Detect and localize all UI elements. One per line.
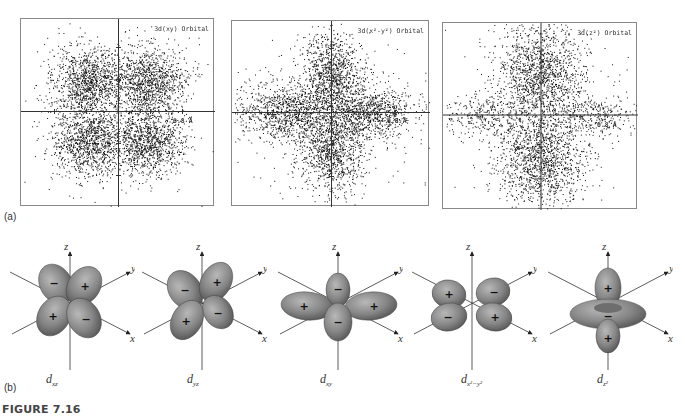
- svg-text:x: x: [397, 332, 403, 344]
- svg-text:+: +: [181, 315, 190, 328]
- svg-text:x: x: [261, 332, 267, 344]
- orbital-dyz: zyx−++−: [137, 238, 267, 378]
- svg-text:+: +: [299, 300, 308, 313]
- orbital-dx2y2: zyx+−−+: [407, 238, 537, 378]
- svg-text:z: z: [465, 240, 471, 252]
- part-a-label: (a): [4, 211, 16, 222]
- svg-text:x: x: [667, 332, 673, 344]
- svg-text:+: +: [603, 332, 612, 345]
- svg-text:y: y: [532, 262, 537, 274]
- scale-label: 0.8 Å: [173, 117, 193, 125]
- orbital-dz2-diagram: zyx+−+: [543, 238, 673, 378]
- plot-title: 3d(z²) Orbital: [577, 29, 632, 37]
- label-dxy: dxy: [320, 372, 332, 388]
- part-b-label: (b): [4, 382, 16, 393]
- svg-text:y: y: [262, 262, 267, 274]
- orbital-dx2y2-diagram: zyx+−−+: [407, 238, 537, 378]
- svg-text:+: +: [603, 282, 612, 295]
- svg-text:+: +: [369, 300, 378, 313]
- dot-density-canvas: [443, 23, 638, 210]
- svg-text:z: z: [601, 240, 607, 252]
- svg-text:−: −: [333, 283, 342, 296]
- svg-text:−: −: [333, 316, 342, 329]
- plot-title: 3d(x²-y²) Orbital: [357, 27, 424, 35]
- svg-text:+: +: [48, 310, 57, 323]
- orbital-dz2: zyx+−+: [543, 238, 673, 378]
- orbital-plot-3dx2y2: 3d(x²-y²) Orbital 0.8 Å: [231, 20, 429, 206]
- svg-text:x: x: [531, 332, 537, 344]
- orbital-dxy: zyx−++−: [273, 238, 403, 378]
- figure-caption: FIGURE 7.16: [2, 403, 81, 416]
- svg-text:−: −: [443, 311, 452, 324]
- svg-text:z: z: [331, 240, 337, 252]
- orbital-plot-3dxy: 3d(xy) Orbital 0.8 Å: [20, 18, 214, 206]
- svg-text:−: −: [81, 313, 90, 326]
- label-dyz: dyz: [187, 372, 199, 388]
- dot-density-canvas: [21, 19, 215, 207]
- orbital-plot-3dz2: 3d(z²) Orbital 0.8 Å: [442, 22, 637, 209]
- label-dx2y2: dx²−y²: [461, 372, 482, 388]
- svg-text:z: z: [195, 240, 201, 252]
- svg-text:x: x: [129, 332, 135, 344]
- orbital-dxz: zyx−++−: [5, 238, 135, 378]
- label-dz2: dz²: [597, 372, 608, 388]
- svg-text:−: −: [603, 310, 612, 323]
- svg-text:−: −: [489, 286, 498, 299]
- svg-text:+: +: [490, 311, 499, 324]
- orbital-dyz-diagram: zyx−++−: [137, 238, 267, 378]
- svg-text:−: −: [49, 277, 58, 290]
- dot-density-canvas: [232, 21, 430, 207]
- orbital-dxz-diagram: zyx−++−: [5, 238, 135, 378]
- svg-text:z: z: [63, 240, 69, 252]
- svg-text:−: −: [180, 284, 189, 297]
- orbital-dxy-diagram: zyx−++−: [273, 238, 403, 378]
- svg-text:y: y: [398, 262, 403, 274]
- svg-text:y: y: [668, 262, 673, 274]
- label-dxz: dxz: [46, 372, 58, 388]
- scale-label: 0.8 Å: [597, 121, 617, 129]
- svg-text:+: +: [212, 276, 221, 289]
- svg-text:+: +: [444, 288, 453, 301]
- plot-title: 3d(xy) Orbital: [154, 25, 209, 33]
- scale-label: 0.8 Å: [387, 117, 407, 125]
- svg-text:y: y: [130, 262, 135, 274]
- svg-text:+: +: [80, 280, 89, 293]
- svg-text:−: −: [213, 307, 222, 320]
